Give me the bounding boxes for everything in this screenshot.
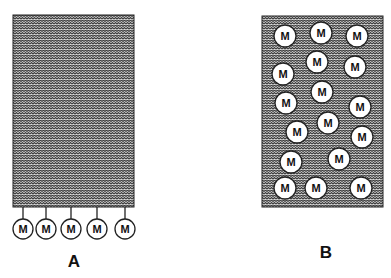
m-particle: M — [274, 25, 296, 47]
m-particle-label: M — [334, 153, 343, 165]
panel-a-membrane-bound: MMMMM — [13, 15, 135, 239]
m-particle-label: M — [317, 86, 326, 98]
m-particle: M — [115, 219, 135, 239]
m-particle-label: M — [311, 182, 320, 194]
m-particle-label: M — [18, 223, 27, 235]
m-particle-label: M — [316, 27, 325, 39]
m-particle-label: M — [312, 56, 321, 68]
m-particle: M — [61, 219, 81, 239]
m-particle-label: M — [352, 30, 361, 42]
m-particle-label: M — [66, 223, 75, 235]
m-particle: M — [280, 151, 302, 173]
m-particle-label: M — [41, 223, 50, 235]
m-particle: M — [328, 148, 350, 170]
m-particle: M — [87, 219, 107, 239]
m-particle: M — [317, 112, 339, 134]
m-particle-label: M — [92, 223, 101, 235]
m-particle: M — [306, 51, 328, 73]
m-particle: M — [275, 92, 297, 114]
m-particle: M — [351, 126, 373, 148]
m-particle-label: M — [355, 101, 364, 113]
m-particle: M — [272, 63, 294, 85]
panel-a-label: A — [68, 252, 80, 272]
diagram-canvas: MMMMM MMMMMMMMMMMMMMMMM — [0, 0, 391, 278]
m-particle: M — [13, 219, 33, 239]
panel-b-label: B — [320, 243, 332, 263]
m-particle-label: M — [356, 182, 365, 194]
m-particle: M — [310, 22, 332, 44]
m-particle-label: M — [350, 61, 359, 73]
m-particle-label: M — [357, 131, 366, 143]
panel-b-dispersed: MMMMMMMMMMMMMMMMM — [262, 16, 383, 207]
m-particle: M — [274, 177, 296, 199]
m-particle-label: M — [323, 117, 332, 129]
m-particle-label: M — [120, 223, 129, 235]
m-particle: M — [346, 25, 368, 47]
m-particle: M — [311, 81, 333, 103]
m-particle: M — [36, 219, 56, 239]
m-particle: M — [305, 177, 327, 199]
m-particle: M — [350, 177, 372, 199]
m-particle-label: M — [281, 97, 290, 109]
m-particle-label: M — [280, 30, 289, 42]
m-particle-label: M — [292, 126, 301, 138]
m-particle: M — [286, 121, 308, 143]
m-particle: M — [349, 96, 371, 118]
panel-a-box — [13, 15, 134, 207]
m-particle-label: M — [286, 156, 295, 168]
m-particle-label: M — [278, 68, 287, 80]
m-particle-label: M — [280, 182, 289, 194]
m-particle: M — [344, 56, 366, 78]
